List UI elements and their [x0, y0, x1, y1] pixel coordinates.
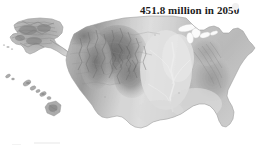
- map-svg: [0, 0, 270, 149]
- alaska-inset: [3, 14, 76, 62]
- population-annotation: 451.8 million in 2050: [140, 4, 266, 17]
- us-relief-map: [0, 0, 270, 149]
- hawaii-inset: [5, 73, 61, 116]
- scan-artifact: [232, 3, 239, 10]
- contiguous-us: [60, 10, 260, 135]
- map-figure-canvas: 451.8 million in 2050: [0, 0, 270, 149]
- scan-artifact: [12, 144, 21, 145]
- scan-artifact: [34, 142, 60, 144]
- aleutian-islands: [3, 45, 13, 50]
